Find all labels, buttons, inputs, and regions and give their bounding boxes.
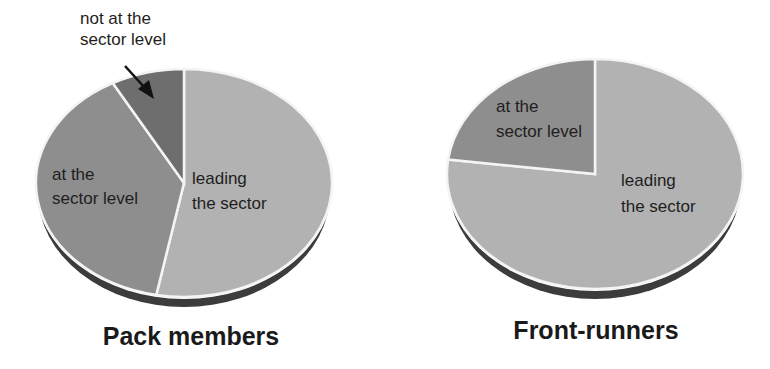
left-at-label-line1: at the (52, 164, 95, 185)
right-at-label-line1: at the (496, 96, 539, 117)
right-at-label-line2: sector level (496, 121, 582, 142)
left-not-label-line2: sector level (80, 29, 166, 50)
left-leading-label-line1: leading (192, 168, 247, 189)
left-at-label-line2: sector level (52, 188, 138, 209)
right-leading-label-line2: the sector (621, 196, 696, 217)
left-pie-title: Pack members (60, 322, 322, 351)
chart-figure: not at the sector level at the sector le… (0, 0, 770, 369)
right-pie (446, 59, 744, 299)
right-leading-label-line1: leading (621, 170, 676, 191)
left-leading-label-line2: the sector (192, 193, 267, 214)
left-not-label-line1: not at the (80, 8, 151, 29)
right-pie-title: Front-runners (465, 316, 727, 345)
